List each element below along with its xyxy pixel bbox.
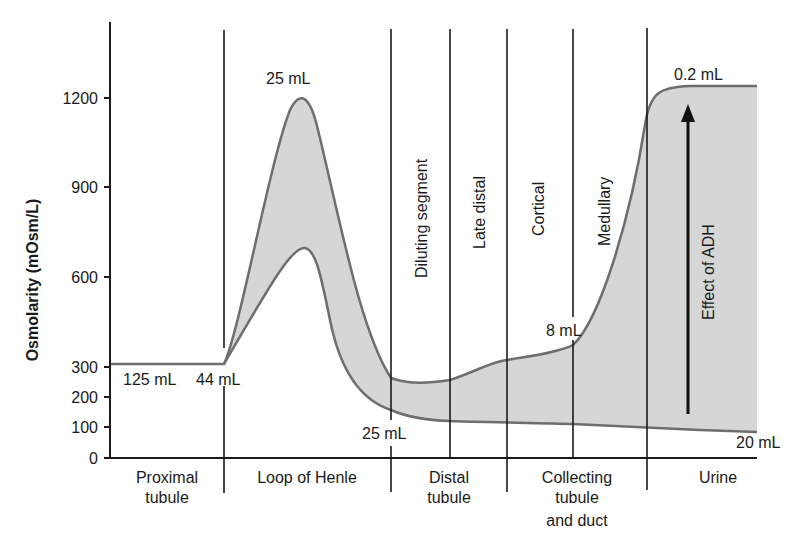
- svg-text:1200: 1200: [62, 90, 98, 107]
- subsegment-labels: Diluting segment Late distal Cortical Me…: [413, 158, 613, 278]
- svg-text:Proximal: Proximal: [136, 469, 198, 486]
- svg-text:44 mL: 44 mL: [196, 371, 241, 388]
- svg-text:900: 900: [71, 179, 98, 196]
- y-axis-title: Osmolarity (mOsm/L): [24, 199, 41, 362]
- subsegment-cortical: Cortical: [530, 182, 547, 236]
- svg-text:600: 600: [71, 269, 98, 286]
- svg-text:Distal: Distal: [429, 469, 469, 486]
- svg-text:Loop of Henle: Loop of Henle: [257, 469, 357, 486]
- subsegment-diluting: Diluting segment: [413, 158, 430, 278]
- adh-label: Effect of ADH: [700, 224, 717, 320]
- y-tick-labels: 1200 900 600 300 200 100 0: [62, 90, 98, 467]
- svg-text:0: 0: [89, 450, 98, 467]
- subsegment-late-distal: Late distal: [471, 176, 488, 249]
- svg-text:tubule: tubule: [427, 489, 471, 506]
- svg-text:20 mL: 20 mL: [736, 434, 781, 451]
- svg-text:tubule: tubule: [555, 489, 599, 506]
- svg-text:Collecting: Collecting: [542, 469, 612, 486]
- svg-text:tubule: tubule: [145, 489, 189, 506]
- svg-text:Urine: Urine: [699, 469, 737, 486]
- subsegment-medullary: Medullary: [596, 177, 613, 246]
- svg-text:0.2 mL: 0.2 mL: [674, 66, 723, 83]
- svg-text:25 mL: 25 mL: [362, 425, 407, 442]
- osmolarity-band: [224, 86, 757, 432]
- svg-text:and duct: and duct: [546, 512, 608, 529]
- svg-text:100: 100: [71, 419, 98, 436]
- svg-text:200: 200: [71, 389, 98, 406]
- svg-text:125 mL: 125 mL: [123, 371, 176, 388]
- osmolarity-diagram: 1200 900 600 300 200 100 0 Osmolarity (m…: [0, 0, 809, 544]
- svg-text:300: 300: [71, 359, 98, 376]
- svg-text:25 mL: 25 mL: [266, 70, 311, 87]
- svg-text:8 mL: 8 mL: [546, 322, 582, 339]
